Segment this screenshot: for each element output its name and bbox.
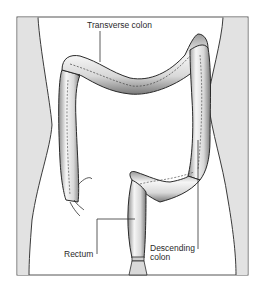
label-descending-line2: colon (150, 253, 195, 262)
label-rectum: Rectum (64, 250, 93, 259)
anal-canal (129, 261, 147, 275)
diagram-canvas (0, 0, 261, 293)
label-transverse-colon: Transverse colon (87, 21, 152, 30)
label-descending-colon: Descending colon (150, 244, 195, 262)
anal-sphincter (132, 257, 144, 261)
colon-diagram: Transverse colon Rectum Descending colon (0, 0, 261, 293)
